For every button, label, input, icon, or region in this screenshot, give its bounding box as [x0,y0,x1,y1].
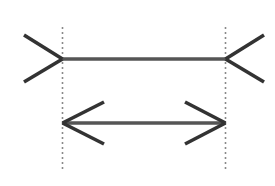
figure-canvas [0,0,275,186]
muller-lyer-figure [0,0,275,186]
figure-background [0,0,275,186]
